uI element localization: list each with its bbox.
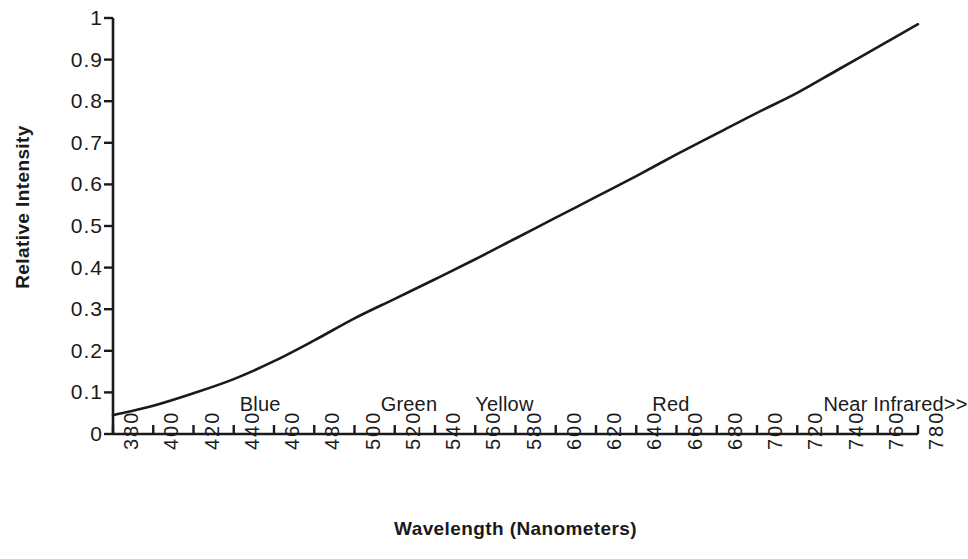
- intensity-curve: [113, 24, 918, 415]
- data-series: [113, 24, 918, 415]
- axes: [104, 18, 918, 434]
